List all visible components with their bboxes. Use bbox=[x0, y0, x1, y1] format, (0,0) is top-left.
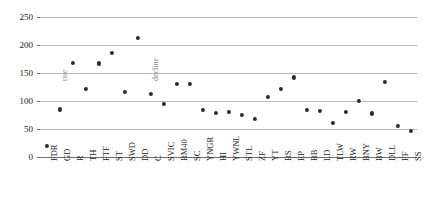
data-point bbox=[109, 51, 113, 55]
xtick-label-th: TH bbox=[89, 150, 98, 161]
ytick-mark bbox=[37, 45, 40, 46]
gridline bbox=[40, 17, 417, 18]
xtick-label-sc: SC bbox=[193, 151, 202, 161]
data-point bbox=[161, 102, 165, 106]
ytick-label: 50 bbox=[0, 125, 33, 134]
gridline bbox=[40, 129, 417, 130]
ytick-label: 0 bbox=[0, 153, 33, 162]
xtick-label-ftf: FTF bbox=[102, 146, 111, 161]
data-point bbox=[213, 111, 217, 115]
xtick-label-bb: BB bbox=[310, 150, 319, 161]
xtick-label-dll: DLL bbox=[388, 144, 397, 161]
data-point bbox=[122, 90, 126, 94]
xtick-label-bw: BW bbox=[375, 147, 384, 161]
xtick-label-swd: SWD bbox=[128, 142, 137, 161]
data-point bbox=[200, 108, 204, 112]
ytick-label: 200 bbox=[0, 41, 33, 50]
data-point bbox=[265, 94, 269, 98]
data-point bbox=[148, 92, 152, 96]
xtick-label-dd: DD bbox=[141, 149, 150, 161]
data-point bbox=[317, 108, 321, 112]
data-point bbox=[252, 117, 256, 121]
ytick-mark bbox=[37, 73, 40, 74]
xtick-label-yngr: YNGR bbox=[206, 137, 215, 161]
data-point bbox=[382, 80, 386, 84]
xtick-label-ss: SS bbox=[414, 152, 423, 161]
data-point bbox=[278, 87, 282, 91]
data-point bbox=[187, 82, 191, 86]
xtick-label-st: ST bbox=[115, 151, 124, 161]
data-point bbox=[343, 110, 347, 114]
ytick-mark bbox=[37, 101, 40, 102]
xtick-label-ff: FF bbox=[401, 152, 410, 161]
data-point bbox=[304, 108, 308, 112]
ytick-mark bbox=[37, 129, 40, 130]
gridline bbox=[40, 101, 417, 102]
data-point bbox=[70, 61, 74, 65]
gridline bbox=[40, 45, 417, 46]
gridline bbox=[40, 73, 417, 74]
xtick-label-yt: YT bbox=[271, 150, 280, 161]
data-point bbox=[83, 87, 87, 91]
xtick-label-bs: BS bbox=[284, 151, 293, 161]
data-point bbox=[96, 61, 100, 65]
ytick-label: 100 bbox=[0, 97, 33, 106]
annotation-rise: rise bbox=[61, 70, 69, 82]
annotation-decline: decline bbox=[152, 58, 160, 81]
data-point bbox=[135, 36, 139, 40]
data-point bbox=[174, 82, 178, 86]
data-point bbox=[330, 121, 334, 125]
xtick-label-hi: HI bbox=[219, 152, 228, 161]
data-point bbox=[57, 107, 61, 111]
ytick-label: 250 bbox=[0, 13, 33, 22]
ytick-label: 150 bbox=[0, 69, 33, 78]
data-point bbox=[395, 124, 399, 128]
xtick-label-rw: RW bbox=[349, 148, 358, 161]
data-point bbox=[408, 129, 412, 133]
xtick-label-zf: ZF bbox=[258, 151, 267, 161]
xtick-label-svic: SVIC bbox=[167, 142, 176, 161]
xtick-label-ywnl: YWNL bbox=[232, 136, 241, 162]
scatter-chart: risedecline 050100150200250 FDRGDRTHFTFS… bbox=[0, 0, 425, 206]
xtick-label-ep: EP bbox=[297, 151, 306, 161]
xtick-label-bny: BNY bbox=[362, 143, 371, 161]
xtick-label-stl: STL bbox=[245, 146, 254, 161]
data-point bbox=[239, 113, 243, 117]
xtick-label-tlw: TLW bbox=[336, 143, 345, 161]
data-point bbox=[226, 110, 230, 114]
data-point bbox=[356, 99, 360, 103]
ytick-mark bbox=[37, 17, 40, 18]
xtick-label-gd: GD bbox=[63, 149, 72, 161]
xtick-label-r: R bbox=[76, 155, 85, 161]
xtick-label-fdr: FDR bbox=[50, 144, 59, 161]
plot-area: risedecline bbox=[40, 17, 417, 157]
ytick-mark bbox=[37, 157, 40, 158]
data-point bbox=[369, 111, 373, 115]
data-point bbox=[291, 75, 295, 79]
data-point bbox=[44, 144, 48, 148]
xtick-label-bm40: BM40 bbox=[180, 139, 189, 161]
xtick-label-ld: LD bbox=[323, 150, 332, 161]
xtick-label-c: C bbox=[154, 155, 163, 161]
